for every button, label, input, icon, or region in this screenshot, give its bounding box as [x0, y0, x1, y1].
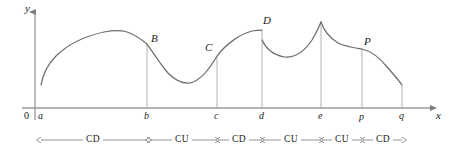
origin-label: 0 [24, 111, 29, 121]
curve-point-label-P: P [364, 36, 371, 47]
x-tick-label-q: q [399, 111, 404, 121]
concavity-label-a-b: CD [83, 135, 103, 145]
concavity-label-c-d: CD [229, 135, 249, 145]
concavity-label-d-e: CU [281, 135, 301, 145]
x-tick-label-p: p [359, 112, 364, 122]
x-tick-label-a: a [38, 111, 43, 121]
concavity-figure: y x 0 a b c d e p q B C D P CD CU CD CU … [0, 0, 454, 154]
function-curve-segment-epq [321, 22, 402, 85]
curve-point-label-C: C [205, 42, 212, 53]
concavity-label-b-c: CU [172, 135, 192, 145]
y-axis-label: y [25, 3, 30, 14]
curve-point-label-D: D [263, 15, 271, 26]
function-curve-segment-de [262, 22, 321, 57]
curve-point-label-B: B [151, 33, 158, 44]
x-tick-label-d: d [259, 111, 264, 121]
concavity-label-e-p: CU [332, 135, 352, 145]
x-tick-label-c: c [214, 111, 218, 121]
figure-canvas [0, 0, 454, 154]
x-axis-label: x [436, 110, 441, 121]
x-tick-label-b: b [144, 111, 149, 121]
concavity-label-p-q: CD [373, 135, 393, 145]
x-tick-label-e: e [318, 111, 322, 121]
